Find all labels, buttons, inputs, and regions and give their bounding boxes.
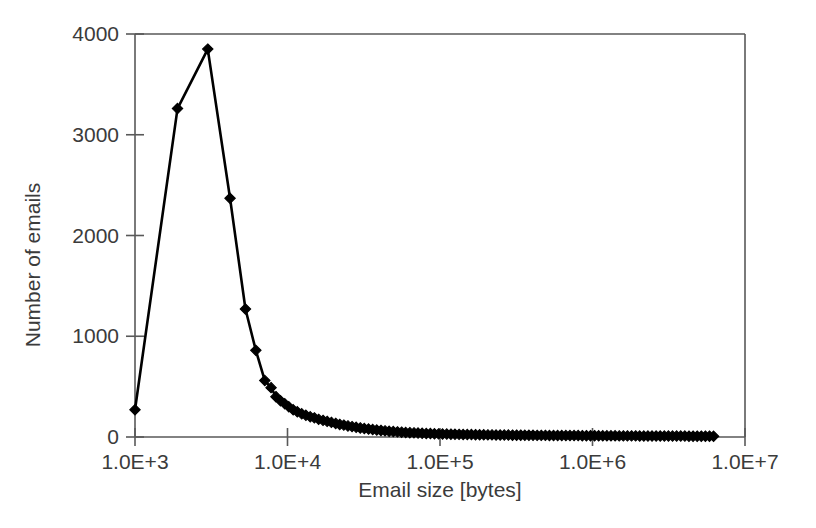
chart-background [0,0,816,528]
email-size-distribution-chart: 1.0E+31.0E+41.0E+51.0E+61.0E+7 010002000… [0,0,816,528]
x-tick-label-0: 1.0E+3 [101,450,168,473]
y-tick-label-3: 3000 [72,123,119,146]
x-tick-label-4: 1.0E+7 [711,450,778,473]
y-tick-label-2: 2000 [72,224,119,247]
x-axis-title: Email size [bytes] [358,478,521,501]
x-tick-label-2: 1.0E+5 [406,450,473,473]
y-axis-title: Number of emails [21,183,44,348]
x-tick-label-3: 1.0E+6 [559,450,626,473]
y-tick-label-1: 1000 [72,324,119,347]
x-tick-label-1: 1.0E+4 [254,450,321,473]
chart-figure: 1.0E+31.0E+41.0E+51.0E+61.0E+7 010002000… [0,0,816,528]
y-tick-label-0: 0 [107,425,119,448]
y-tick-label-4: 4000 [72,22,119,45]
